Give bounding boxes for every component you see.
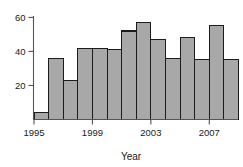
- bars-group: [34, 23, 239, 120]
- bar: [63, 80, 78, 119]
- x-ticks-group: 1995199920032007: [23, 120, 219, 138]
- chart-canvas: 204060 1995199920032007 Year: [0, 0, 243, 167]
- bar: [78, 48, 93, 119]
- y-tick-label: 20: [15, 80, 26, 91]
- bar: [165, 58, 180, 119]
- bar: [224, 60, 239, 120]
- x-tick-label: 1999: [82, 127, 103, 138]
- bar-chart: 204060 1995199920032007 Year: [0, 0, 243, 167]
- bar: [49, 58, 64, 119]
- x-axis-title: Year: [121, 151, 142, 162]
- bar: [180, 38, 195, 120]
- bar: [136, 23, 151, 120]
- bar: [107, 50, 122, 120]
- bar: [34, 113, 49, 120]
- x-tick-label: 2007: [199, 127, 220, 138]
- bar: [151, 40, 166, 120]
- bar: [92, 48, 107, 119]
- y-ticks-group: 204060: [15, 12, 34, 91]
- bar: [195, 60, 210, 120]
- x-tick-label: 1995: [23, 127, 44, 138]
- y-tick-label: 40: [15, 46, 26, 57]
- x-tick-label: 2003: [140, 127, 161, 138]
- bar: [209, 26, 224, 120]
- y-tick-label: 60: [15, 12, 26, 23]
- bar: [122, 31, 137, 119]
